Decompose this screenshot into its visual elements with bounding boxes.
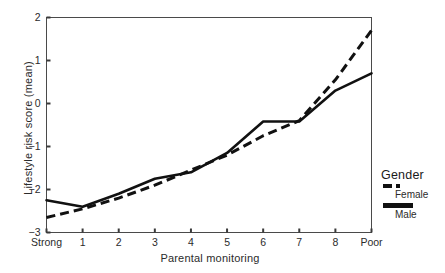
x-tick-marks <box>47 229 372 233</box>
legend-swatch-dashed-icon <box>383 184 413 188</box>
series-line-male <box>47 73 372 206</box>
chart-legend: Gender Female Male <box>381 168 445 223</box>
plot-area <box>0 0 445 273</box>
legend-entry-female: Female <box>381 184 445 200</box>
legend-swatch-solid-icon <box>383 203 413 208</box>
legend-title: Gender <box>381 168 445 182</box>
legend-label-female: Female <box>395 189 445 200</box>
legend-label-male: Male <box>395 209 445 220</box>
chart-container: Lifestyle risk score (mean) Parental mon… <box>0 0 445 273</box>
plot-frame <box>47 18 372 233</box>
series-line-female <box>47 30 372 217</box>
legend-entry-male: Male <box>381 203 445 220</box>
